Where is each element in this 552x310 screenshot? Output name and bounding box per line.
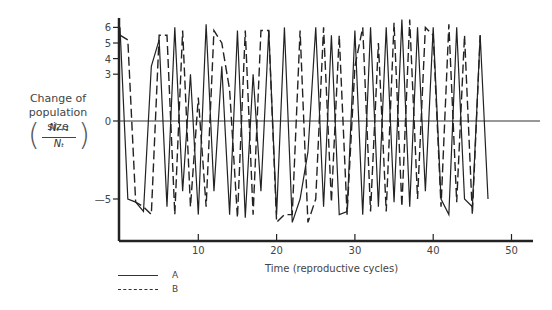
x-ticks: 1020304050 (192, 234, 518, 256)
svg-text:6: 6 (105, 22, 111, 33)
legend: A B (118, 268, 178, 296)
legend-item-a: A (118, 268, 178, 282)
svg-text:50: 50 (505, 245, 518, 256)
svg-text:3: 3 (105, 69, 111, 80)
legend-label-b: B (172, 284, 178, 294)
dashed-line-swatch (118, 289, 158, 290)
svg-text:4: 4 (105, 54, 111, 65)
formula-numerator: Nₜ₊₁ (12, 122, 106, 133)
svg-text:5: 5 (105, 38, 111, 49)
legend-label-a: A (172, 270, 178, 280)
svg-text:40: 40 (427, 245, 440, 256)
y-axis-formula: ( Nₜ₊₁ Nₜ ) (12, 121, 106, 155)
formula-denominator: Nₜ (12, 138, 106, 149)
x-axis-label: Time (reproductive cycles) (265, 263, 398, 274)
svg-text:10: 10 (192, 245, 205, 256)
svg-text:20: 20 (270, 245, 283, 256)
svg-text:—5: —5 (95, 194, 111, 205)
svg-text:30: 30 (349, 245, 362, 256)
right-paren: ) (78, 117, 90, 152)
legend-item-b: B (118, 282, 178, 296)
solid-line-swatch (118, 275, 158, 276)
y-ticks: 65430—5 (95, 22, 119, 205)
